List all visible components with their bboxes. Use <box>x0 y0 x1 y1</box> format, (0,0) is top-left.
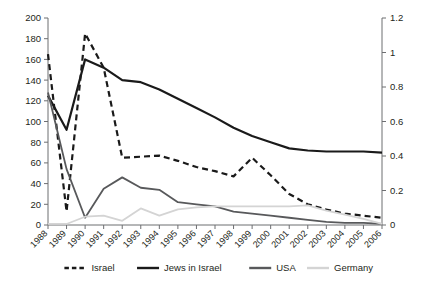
right-axis-tick-label: 0 <box>390 219 395 230</box>
x-axis-tick-label: 2002 <box>288 228 309 249</box>
x-axis-tick-label: 1989 <box>47 228 68 249</box>
left-axis-tick-label: 100 <box>25 116 41 127</box>
left-axis-tick-label: 40 <box>30 178 41 189</box>
x-axis-tick-label: 2001 <box>269 228 290 249</box>
left-axis-tick-label: 120 <box>25 95 41 106</box>
series-line-israel <box>48 34 382 218</box>
x-axis-tick-label: 1993 <box>121 228 142 249</box>
right-axis-tick-label: 0.6 <box>390 116 403 127</box>
x-axis-tick-label: 1990 <box>65 228 86 249</box>
x-axis-tick-label: 1995 <box>158 228 179 249</box>
legend-label-germany: Germany <box>334 262 373 273</box>
chart-canvas: 02040608010012014016018020000.20.40.60.8… <box>0 0 433 287</box>
left-axis-tick-label: 20 <box>30 199 41 210</box>
x-axis-tick-label: 1997 <box>195 228 216 249</box>
x-axis-tick-label: 1994 <box>140 228 161 249</box>
right-axis-tick-label: 0.2 <box>390 185 403 196</box>
x-axis-tick-label: 2006 <box>362 228 383 249</box>
left-axis-tick-label: 60 <box>30 157 41 168</box>
series-line-germany <box>48 205 382 224</box>
left-axis-tick-label: 200 <box>25 12 41 23</box>
right-axis-tick-label: 1 <box>390 47 395 58</box>
right-axis-tick-label: 0.8 <box>390 81 403 92</box>
left-axis-tick-label: 0 <box>36 219 41 230</box>
legend-label-israel: Israel <box>91 262 114 273</box>
x-axis-tick-label: 1991 <box>84 228 105 249</box>
left-axis-tick-label: 160 <box>25 54 41 65</box>
x-axis-tick-label: 2004 <box>325 228 346 249</box>
legend-label-jews-in-israel: Jews in Israel <box>164 262 222 273</box>
line-chart: 02040608010012014016018020000.20.40.60.8… <box>0 0 433 287</box>
x-axis-tick-label: 2003 <box>307 228 328 249</box>
legend-label-usa: USA <box>276 262 296 273</box>
x-axis-tick-label: 1992 <box>102 228 123 249</box>
series-line-jews-in-israel <box>48 59 382 152</box>
x-axis-tick-label: 1996 <box>177 228 198 249</box>
x-axis-tick-label: 1988 <box>28 228 49 249</box>
left-axis-tick-label: 140 <box>25 75 41 86</box>
x-axis-tick-label: 1998 <box>214 228 235 249</box>
left-axis-tick-label: 80 <box>30 137 41 148</box>
series-line-usa <box>48 93 382 224</box>
right-axis-tick-label: 1.2 <box>390 12 403 23</box>
left-axis-tick-label: 180 <box>25 33 41 44</box>
right-axis-tick-label: 0.4 <box>390 150 403 161</box>
x-axis-tick-label: 2005 <box>344 228 365 249</box>
x-axis-tick-label: 1999 <box>232 228 253 249</box>
x-axis-tick-label: 2000 <box>251 228 272 249</box>
